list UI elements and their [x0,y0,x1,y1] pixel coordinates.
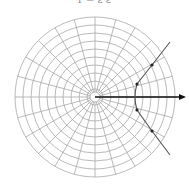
curve-point [150,63,153,66]
grid-spoke [55,28,93,93]
grid-spoke [99,100,164,138]
axis-arrowhead-icon [179,94,186,100]
grid-spoke [26,100,91,138]
grid-spoke [26,57,91,95]
grid-spoke [55,101,93,166]
curve-point [135,82,138,85]
curve-point [150,129,153,132]
grid-spoke [98,28,136,93]
curve-point [135,108,138,111]
polar-diagram [0,0,189,193]
grid-spoke [98,101,136,166]
